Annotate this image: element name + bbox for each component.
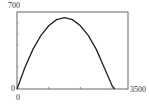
data-curve (17, 18, 115, 89)
axis-ticks (17, 23, 112, 89)
chart-plot-area (0, 0, 149, 106)
chart-frame (17, 12, 128, 89)
